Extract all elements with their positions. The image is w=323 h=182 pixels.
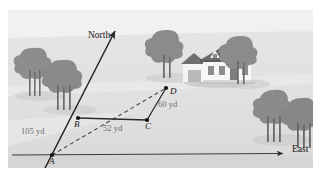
distance-AB-label: 105 yd [21,127,44,136]
house-dormer-left-window [213,54,217,58]
scene-group [8,10,319,178]
point-B-label: B [74,120,80,129]
distance-CD-label: 60 yd [158,100,177,109]
point-A-label: A [49,157,55,166]
point-C-label: C [145,122,151,131]
house-foundation [199,82,255,84]
point-D-label: D [170,87,177,96]
east-axis-label: East [292,145,308,155]
house-window-2 [219,66,225,75]
house-garage-door [188,70,201,82]
house-window-1 [208,66,214,75]
north-axis-label: North [88,31,110,41]
point-D-marker [164,86,168,90]
diagram-canvas [0,0,323,182]
surveying-diagram-figure: North East A B C D 105 yd 52 yd 60 yd [0,0,323,182]
distance-BC-label: 52 yd [103,124,122,133]
